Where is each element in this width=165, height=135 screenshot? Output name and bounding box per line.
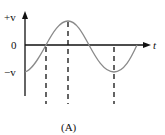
y-axis-arrow-icon — [22, 11, 28, 19]
label-t: t — [153, 39, 157, 51]
label-zero: 0 — [11, 39, 17, 51]
label-plus-v: +v — [4, 11, 16, 23]
label-minus-v: −v — [4, 66, 16, 78]
waveform-diagram: +v 0 −v t (A) — [0, 0, 165, 135]
sine-curve — [25, 21, 137, 72]
caption: (A) — [61, 121, 77, 134]
x-axis-arrow-icon — [143, 42, 151, 48]
